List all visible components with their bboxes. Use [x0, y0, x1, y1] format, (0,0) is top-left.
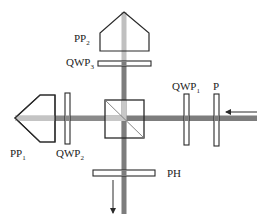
qwp3-beam-pass	[122, 62, 127, 66]
qwp1-label: QWP1	[172, 80, 200, 95]
pp1-label: PP1	[10, 147, 26, 162]
optical-diagram: PP2 QWP3 PP1 QWP2 QWP1 P PH	[0, 0, 267, 224]
polarizer-beam-pass	[215, 116, 219, 122]
pp2-label: PP2	[74, 32, 90, 47]
qwp2-label: QWP2	[56, 147, 84, 162]
vertical-beam-bottom	[122, 121, 127, 214]
vertical-beam-top-light	[122, 12, 127, 62]
pp1-beam	[15, 116, 55, 122]
ph-label: PH	[167, 167, 181, 179]
ph-beam-pass	[122, 171, 127, 176]
qwp1-beam-pass	[185, 116, 189, 122]
beams	[15, 12, 257, 214]
qwp3-label: QWP3	[66, 56, 94, 71]
qwp2-beam-pass	[66, 116, 70, 122]
polarizer-label: P	[213, 80, 219, 92]
